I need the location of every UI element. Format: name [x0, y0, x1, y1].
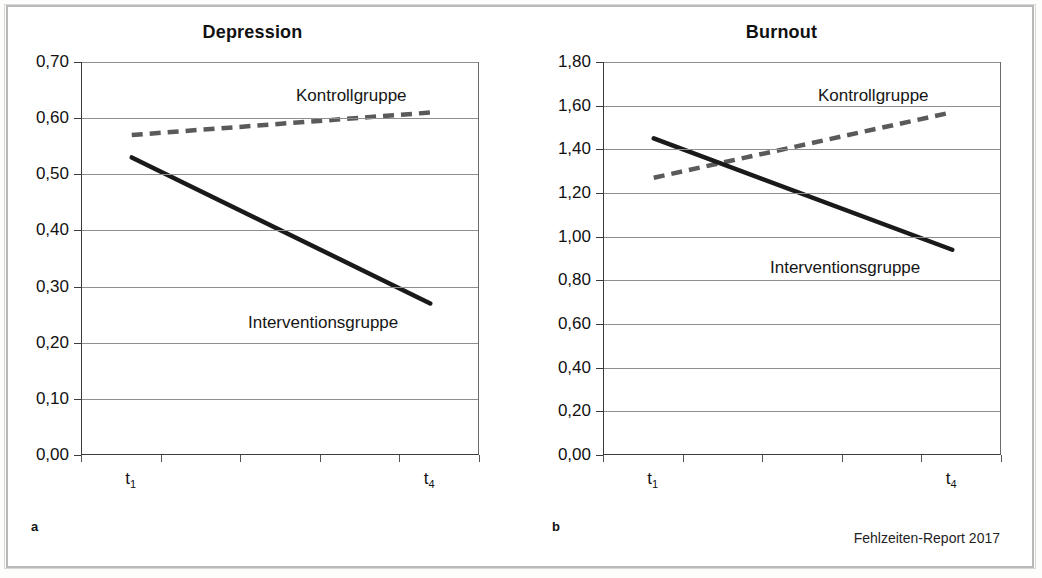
- y-tick-mark: [74, 118, 81, 119]
- x-tick-mark: [921, 455, 922, 462]
- x-tick-label: t1: [125, 469, 136, 490]
- x-tick-mark: [683, 455, 684, 462]
- y-tick-label: 0,60: [0, 108, 69, 128]
- x-tick-label: t4: [946, 469, 957, 490]
- y-tick-mark: [74, 399, 81, 400]
- gridline: [82, 399, 478, 400]
- series-line-interventionsgruppe: [654, 138, 953, 249]
- gridline: [82, 62, 478, 63]
- y-tick-label: 0,20: [521, 401, 591, 421]
- y-tick-mark: [74, 343, 81, 344]
- gridline: [82, 118, 478, 119]
- x-tick-mark: [240, 455, 241, 462]
- gridline: [82, 287, 478, 288]
- y-tick-mark: [74, 455, 81, 456]
- chart-title-burnout: Burnout: [521, 22, 1042, 43]
- y-tick-label: 0,00: [0, 445, 69, 465]
- y-tick-mark: [74, 287, 81, 288]
- y-tick-label: 1,20: [521, 183, 591, 203]
- gridline: [604, 280, 1000, 281]
- y-tick-label: 0,10: [0, 389, 69, 409]
- panel-letter-b: b: [552, 519, 560, 534]
- y-tick-label: 0,70: [0, 52, 69, 72]
- y-tick-label: 0,30: [0, 277, 69, 297]
- source-note: Fehlzeiten-Report 2017: [854, 530, 1000, 546]
- y-tick-mark: [596, 324, 603, 325]
- y-tick-mark: [596, 149, 603, 150]
- gridline: [82, 174, 478, 175]
- y-tick-label: 0,40: [0, 220, 69, 240]
- x-tick-mark: [161, 455, 162, 462]
- series-label-interventionsgruppe-b: Interventionsgruppe: [770, 258, 920, 278]
- plot-area-depression: [81, 62, 479, 455]
- y-tick-label: 1,60: [521, 96, 591, 116]
- y-tick-label: 1,00: [521, 227, 591, 247]
- y-tick-label: 0,00: [521, 445, 591, 465]
- gridline: [82, 230, 478, 231]
- figure-root: Depression 0,700,600,500,400,300,200,100…: [0, 0, 1042, 578]
- panel-b-burnout: Burnout 1,801,601,401,201,000,800,600,40…: [521, 0, 1042, 578]
- chart-title-depression: Depression: [0, 22, 513, 43]
- series-label-kontrollgruppe-a: Kontrollgruppe: [296, 86, 407, 106]
- gridline: [604, 324, 1000, 325]
- x-tick-mark: [81, 455, 82, 462]
- y-tick-label: 0,60: [521, 314, 591, 334]
- y-tick-mark: [596, 193, 603, 194]
- series-line-kontrollgruppe: [132, 113, 431, 135]
- y-tick-mark: [74, 174, 81, 175]
- series-line-kontrollgruppe: [654, 112, 953, 178]
- y-tick-label: 0,20: [0, 333, 69, 353]
- y-tick-label: 0,80: [521, 270, 591, 290]
- x-tick-mark: [399, 455, 400, 462]
- y-tick-mark: [596, 280, 603, 281]
- series-label-kontrollgruppe-b: Kontrollgruppe: [818, 86, 929, 106]
- y-tick-mark: [596, 62, 603, 63]
- panel-a-depression: Depression 0,700,600,500,400,300,200,100…: [0, 0, 521, 578]
- y-tick-mark: [596, 237, 603, 238]
- x-tick-mark: [479, 455, 480, 462]
- gridline: [604, 149, 1000, 150]
- y-tick-label: 0,40: [521, 358, 591, 378]
- y-tick-label: 1,80: [521, 52, 591, 72]
- x-tick-mark: [762, 455, 763, 462]
- y-tick-mark: [74, 62, 81, 63]
- y-tick-mark: [74, 230, 81, 231]
- x-tick-mark: [603, 455, 604, 462]
- y-tick-label: 0,50: [0, 164, 69, 184]
- gridline: [604, 193, 1000, 194]
- y-tick-mark: [596, 411, 603, 412]
- panel-letter-a: a: [31, 519, 38, 534]
- x-tick-label: t1: [647, 469, 658, 490]
- gridline: [604, 237, 1000, 238]
- series-canvas-depression: [82, 62, 480, 455]
- series-label-interventionsgruppe-a: Interventionsgruppe: [248, 313, 398, 333]
- gridline: [604, 62, 1000, 63]
- x-tick-mark: [320, 455, 321, 462]
- gridline: [604, 368, 1000, 369]
- y-tick-label: 1,40: [521, 139, 591, 159]
- y-tick-mark: [596, 106, 603, 107]
- gridline: [604, 411, 1000, 412]
- y-tick-mark: [596, 368, 603, 369]
- y-tick-mark: [596, 455, 603, 456]
- gridline: [604, 106, 1000, 107]
- x-tick-label: t4: [424, 469, 435, 490]
- x-tick-mark: [1001, 455, 1002, 462]
- x-tick-mark: [842, 455, 843, 462]
- gridline: [82, 343, 478, 344]
